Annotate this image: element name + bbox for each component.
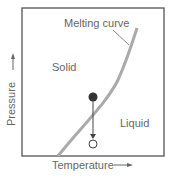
y-axis-label: Pressure <box>5 82 17 126</box>
x-axis-arrowhead-icon <box>127 163 133 167</box>
arrowhead-down-icon <box>90 134 96 139</box>
x-axis-label: Temperature <box>52 159 114 171</box>
region-liquid-label: Liquid <box>120 117 149 129</box>
melting-curve <box>58 28 137 156</box>
y-axis-arrowhead-icon <box>11 53 15 59</box>
open-point-icon <box>89 140 97 148</box>
region-solid-label: Solid <box>52 61 76 73</box>
curve-label: Melting curve <box>64 17 129 29</box>
curve-label-leader <box>113 30 129 45</box>
